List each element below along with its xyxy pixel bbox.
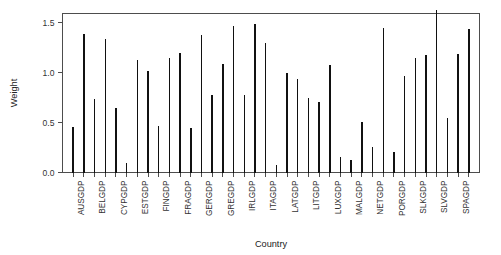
x-tick-label: BELGDP bbox=[98, 180, 107, 214]
weight-by-country-chart: 0.00.51.01.5 AUSGDPBELGDPCYPGDPESTGDPFIN… bbox=[0, 0, 501, 255]
y-tick-label: 1.5 bbox=[43, 18, 55, 28]
y-axis-title: Weight bbox=[9, 78, 19, 107]
x-tick-label: MALGDP bbox=[355, 180, 364, 215]
x-axis-title: Country bbox=[255, 239, 288, 249]
y-axis: 0.00.51.01.5 bbox=[43, 18, 63, 178]
x-tick-label: PORGDP bbox=[398, 180, 407, 216]
x-axis-ticks bbox=[73, 173, 469, 177]
bar-series bbox=[73, 10, 469, 173]
x-tick-label: CYPGDP bbox=[120, 180, 129, 215]
y-tick-label: 1.0 bbox=[43, 68, 55, 78]
x-tick-label: FINGDP bbox=[162, 180, 171, 211]
x-tick-label: SPAGDP bbox=[462, 180, 471, 214]
x-tick-label: SLKGDP bbox=[419, 180, 428, 214]
x-axis-labels: AUSGDPBELGDPCYPGDPESTGDPFINGDPFRAGDPGERG… bbox=[77, 180, 471, 216]
x-tick-label: NETGDP bbox=[376, 180, 385, 215]
x-tick-label: IRLGDP bbox=[248, 180, 257, 211]
x-tick-label: LITGDP bbox=[312, 180, 321, 210]
x-tick-label: LATGDP bbox=[291, 180, 300, 213]
y-tick-label: 0.0 bbox=[43, 168, 55, 178]
x-tick-label: SLVGDP bbox=[440, 180, 449, 213]
x-tick-label: AUSGDP bbox=[77, 180, 86, 215]
plot-frame bbox=[63, 14, 480, 173]
x-tick-label: GREGDP bbox=[227, 180, 236, 216]
x-tick-label: ESTGDP bbox=[141, 180, 150, 214]
x-tick-label: LUXGDP bbox=[334, 180, 343, 214]
x-tick-label: GERGDP bbox=[205, 180, 214, 216]
y-tick-label: 0.5 bbox=[43, 118, 55, 128]
chart-canvas: 0.00.51.01.5 AUSGDPBELGDPCYPGDPESTGDPFIN… bbox=[0, 0, 501, 255]
x-tick-label: FRAGDP bbox=[184, 180, 193, 215]
x-tick-label: ITAGDP bbox=[269, 180, 278, 210]
